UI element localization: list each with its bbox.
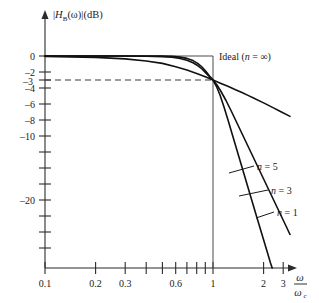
x-axis-arrow-icon xyxy=(288,265,297,272)
annotation-ideal-text: Ideal (n = ∞) xyxy=(219,51,271,63)
y-tick-label-m10: –10 xyxy=(19,131,35,142)
annotation-n5-text: n = 5 xyxy=(257,161,278,172)
butterworth-response-figure: 0 –2 –3 –4 –6 –8 –10 –20 |HB(ω)|(dB) 0.1… xyxy=(0,0,319,303)
x-tick-label-2: 2 xyxy=(261,278,266,289)
annotation-ideal-lead: Ideal ( xyxy=(219,51,245,63)
x-tick-label-0p6: 0.6 xyxy=(169,278,182,289)
y-tick-label-m8: –8 xyxy=(24,115,35,126)
y-tick-labels: 0 –2 –3 –4 –6 –8 –10 –20 xyxy=(19,51,35,206)
x-axis-title: ω ω c xyxy=(294,272,307,300)
plot-canvas: 0 –2 –3 –4 –6 –8 –10 –20 |HB(ω)|(dB) 0.1… xyxy=(0,0,319,303)
y-axis xyxy=(42,10,49,268)
y-axis-omega: (ω) xyxy=(67,9,81,21)
annotation-n1: n = 1 xyxy=(256,207,298,218)
annotation-n1-leader xyxy=(256,212,274,218)
x-tick-label-0p2: 0.2 xyxy=(89,278,102,289)
annotation-n3-leader xyxy=(239,190,268,196)
y-axis-units: (dB) xyxy=(83,9,103,21)
x-tick-label-1: 1 xyxy=(211,278,216,289)
annotation-n3-rest: = 3 xyxy=(276,185,292,196)
annotation-n5-rest: = 5 xyxy=(262,161,278,172)
y-tick-label-m20: –20 xyxy=(19,195,35,206)
annotation-n3: n = 3 xyxy=(239,185,292,196)
annotation-n3-text: n = 3 xyxy=(271,185,292,196)
x-tick-labels: 0.1 0.2 0.3 0.6 1 2 3 xyxy=(39,278,286,289)
y-tick-label-0: 0 xyxy=(30,51,35,62)
y-tick-label-m4: –4 xyxy=(24,83,35,94)
x-tick-label-0p1: 0.1 xyxy=(39,278,52,289)
y-axis-title: |HB(ω)|(dB) xyxy=(53,9,103,23)
x-axis-title-numerator: ω xyxy=(296,272,303,283)
y-axis-title-text: |HB(ω)|(dB) xyxy=(53,9,103,23)
annotation-ideal-rest: = ∞) xyxy=(250,51,271,63)
x-axis-title-denominator: ω xyxy=(294,287,301,298)
curve-n1 xyxy=(45,56,290,116)
annotation-n1-rest: = 1 xyxy=(282,207,298,218)
curve-n5 xyxy=(45,56,272,268)
annotation-ideal: Ideal (n = ∞) xyxy=(219,51,271,63)
x-axis-title-denominator-sub: c xyxy=(303,292,307,300)
ideal-response-curve xyxy=(45,56,213,268)
x-tick-label-0p3: 0.3 xyxy=(119,278,132,289)
x-axis xyxy=(45,265,297,272)
annotation-n5: n = 5 xyxy=(229,161,278,173)
annotation-n1-text: n = 1 xyxy=(277,207,298,218)
y-tick-label-m6: –6 xyxy=(24,99,35,110)
x-tick-label-3: 3 xyxy=(281,278,286,289)
